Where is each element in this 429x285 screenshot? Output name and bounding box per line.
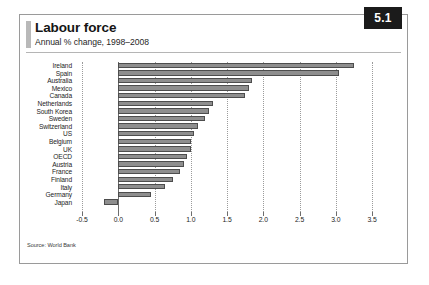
bar-row	[82, 153, 372, 161]
category-label: Canada	[0, 92, 76, 100]
gridline	[372, 62, 373, 214]
bar-row	[82, 161, 372, 169]
bar	[118, 85, 249, 90]
figure-page: 5.1 Labour force Annual % change, 1998–2…	[0, 0, 429, 285]
bar	[118, 93, 245, 98]
bar-row	[82, 176, 372, 184]
category-axis-labels: IrelandSpainAustraliaMexicoCanadaNetherl…	[0, 62, 76, 214]
value-tick-label: 2.0	[259, 216, 268, 223]
bar	[118, 184, 165, 189]
bar	[118, 131, 194, 136]
category-label: UK	[0, 146, 76, 154]
bar	[118, 146, 191, 151]
category-label: Switzerland	[0, 123, 76, 131]
category-label: Japan	[0, 199, 76, 207]
bar-row	[82, 77, 372, 85]
bar-row	[82, 168, 372, 176]
bar	[118, 123, 198, 128]
bar	[118, 63, 354, 68]
bar-row	[82, 123, 372, 131]
value-tick-label: 1.0	[186, 216, 195, 223]
bar-row	[82, 92, 372, 100]
bar-row	[82, 100, 372, 108]
bar	[118, 101, 212, 106]
category-label: Australia	[0, 77, 76, 85]
bar	[118, 192, 151, 197]
bar	[118, 161, 183, 166]
figure-subtitle: Annual % change, 1998–2008	[35, 37, 149, 47]
title-accent-bar	[26, 21, 31, 48]
bar	[118, 78, 252, 83]
bar-series	[82, 62, 372, 214]
value-tick-label: 3.5	[367, 216, 376, 223]
category-label: Netherlands	[0, 100, 76, 108]
category-label: Belgium	[0, 138, 76, 146]
bar	[118, 154, 187, 159]
category-label: Finland	[0, 176, 76, 184]
plot-area	[82, 62, 372, 214]
category-label: Austria	[0, 161, 76, 169]
bar-row	[82, 184, 372, 192]
source-note: Source: World Bank	[27, 242, 76, 248]
category-label: South Korea	[0, 108, 76, 116]
bar-row	[82, 62, 372, 70]
figure-title: Labour force	[35, 20, 116, 35]
bar-row	[82, 146, 372, 154]
bar-row	[82, 108, 372, 116]
value-tick-label: 0.0	[114, 216, 123, 223]
category-label: Mexico	[0, 85, 76, 93]
figure-number-badge: 5.1	[364, 7, 402, 29]
bar-row	[82, 191, 372, 199]
bar	[118, 177, 172, 182]
bar-row	[82, 85, 372, 93]
value-tick-label: 0.5	[150, 216, 159, 223]
bar	[104, 199, 119, 204]
bar-row	[82, 70, 372, 78]
bar-row	[82, 115, 372, 123]
category-label: Italy	[0, 184, 76, 192]
bar	[118, 139, 191, 144]
value-tick-label: 3.0	[331, 216, 340, 223]
bar-row	[82, 199, 372, 207]
figure-number-text: 5.1	[374, 11, 391, 25]
category-label: Germany	[0, 191, 76, 199]
value-axis-labels: -0.50.00.51.01.52.02.53.03.5	[82, 216, 372, 228]
title-divider	[26, 52, 401, 53]
category-label: Ireland	[0, 62, 76, 70]
value-tick-label: 2.5	[295, 216, 304, 223]
value-tick-label: 1.5	[222, 216, 231, 223]
bar	[118, 116, 205, 121]
category-label: OECD	[0, 153, 76, 161]
bar-row	[82, 138, 372, 146]
category-label: US	[0, 130, 76, 138]
bar	[118, 70, 339, 75]
value-tick-label: -0.5	[76, 216, 87, 223]
bar	[118, 108, 209, 113]
category-label: Spain	[0, 70, 76, 78]
category-label: France	[0, 168, 76, 176]
bar-row	[82, 130, 372, 138]
bar	[118, 169, 180, 174]
category-label: Sweden	[0, 115, 76, 123]
